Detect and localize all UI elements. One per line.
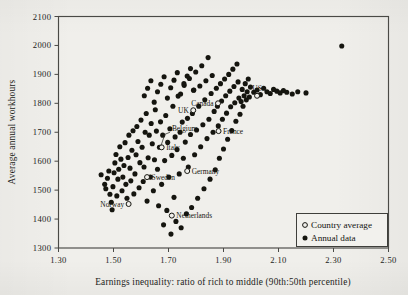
data-point xyxy=(230,67,235,72)
data-point xyxy=(171,195,176,200)
data-point xyxy=(145,199,150,204)
data-point xyxy=(295,89,300,94)
data-point xyxy=(236,79,241,84)
data-point xyxy=(226,72,231,77)
country-label-uk: UK xyxy=(178,106,189,115)
country-label-belgium: Belgium xyxy=(172,124,198,133)
x-axis-label: Earnings inequality: ratio of rich to mi… xyxy=(95,277,351,288)
data-point xyxy=(210,73,215,78)
data-point xyxy=(231,84,236,89)
data-point xyxy=(143,130,148,135)
country-average-marker xyxy=(145,175,150,180)
y-tick-label: 1400 xyxy=(33,214,52,224)
chart-svg: 210020001900180017001600150014001300 1.3… xyxy=(0,0,408,295)
country-label-norway: Norway xyxy=(100,200,124,209)
data-point xyxy=(129,148,134,153)
data-point xyxy=(138,118,143,123)
data-point xyxy=(112,160,117,165)
data-point xyxy=(159,182,164,187)
data-point xyxy=(130,128,135,133)
data-point xyxy=(240,87,245,92)
data-point xyxy=(216,123,221,128)
country-label-canada: Canada xyxy=(191,99,214,108)
x-tick-label: 1.30 xyxy=(50,255,67,265)
data-point xyxy=(209,91,214,96)
data-point xyxy=(245,89,250,94)
data-point xyxy=(148,78,153,83)
data-point xyxy=(106,168,111,173)
data-point xyxy=(126,155,131,160)
x-tick-label: 1.90 xyxy=(215,255,232,265)
data-point xyxy=(198,144,203,149)
data-point xyxy=(189,205,194,210)
data-point xyxy=(123,182,128,187)
data-point xyxy=(150,141,155,146)
country-label-france: France xyxy=(223,127,244,136)
data-point xyxy=(243,81,248,86)
x-tick-label: 2.50 xyxy=(380,255,397,265)
data-point xyxy=(223,93,228,98)
country-average-marker xyxy=(159,145,164,150)
data-point xyxy=(134,124,139,129)
country-average-marker xyxy=(191,108,196,113)
data-point xyxy=(142,93,147,98)
data-point xyxy=(163,113,168,118)
data-point xyxy=(158,82,163,87)
x-tick-label: 1.70 xyxy=(160,255,177,265)
data-point xyxy=(207,177,212,182)
data-point xyxy=(145,86,150,91)
data-point xyxy=(105,176,110,181)
data-point xyxy=(211,130,216,135)
data-point xyxy=(144,111,149,116)
data-point xyxy=(206,55,211,60)
data-point xyxy=(225,137,230,142)
data-point xyxy=(132,171,137,176)
y-tick-label: 1700 xyxy=(33,127,52,137)
data-point xyxy=(123,140,128,145)
data-point xyxy=(146,155,151,160)
data-point xyxy=(239,99,244,104)
x-axis-ticks: 1.301.501.701.902.102.302.50 xyxy=(50,248,397,265)
data-point xyxy=(217,156,222,161)
data-point xyxy=(200,122,205,127)
data-point xyxy=(178,92,183,97)
y-tick-label: 1900 xyxy=(33,69,52,79)
data-point xyxy=(206,117,211,122)
x-tick-label: 2.30 xyxy=(325,255,342,265)
data-point xyxy=(156,203,161,208)
data-point xyxy=(135,139,140,144)
data-point xyxy=(339,43,344,48)
data-point xyxy=(218,81,223,86)
data-point xyxy=(203,78,208,83)
data-point xyxy=(192,152,197,157)
data-point xyxy=(158,119,163,124)
country-average-marker xyxy=(255,93,260,98)
data-point xyxy=(141,179,146,184)
data-point xyxy=(183,140,188,145)
data-point xyxy=(137,185,142,190)
country-average-marker xyxy=(169,213,174,218)
data-point xyxy=(246,76,251,81)
chart-legend[interactable]: Country average Annual data xyxy=(297,214,388,247)
data-point xyxy=(237,112,242,117)
data-point xyxy=(268,91,273,96)
data-point xyxy=(191,87,196,92)
data-point xyxy=(118,157,123,162)
data-point xyxy=(204,136,209,141)
data-point xyxy=(214,86,219,91)
country-label-sweden: Sweden xyxy=(152,173,176,182)
data-point xyxy=(168,85,173,90)
data-point xyxy=(303,90,308,95)
data-point xyxy=(177,171,182,176)
data-point xyxy=(220,117,225,122)
data-point xyxy=(113,152,118,157)
data-point xyxy=(115,177,120,182)
y-tick-label: 2100 xyxy=(33,12,52,22)
data-point xyxy=(121,163,126,168)
data-point xyxy=(234,61,239,66)
y-tick-label: 1800 xyxy=(33,98,52,108)
y-tick-label: 1300 xyxy=(33,243,52,253)
data-point xyxy=(112,170,117,175)
data-point xyxy=(169,153,174,158)
data-point xyxy=(201,186,206,191)
